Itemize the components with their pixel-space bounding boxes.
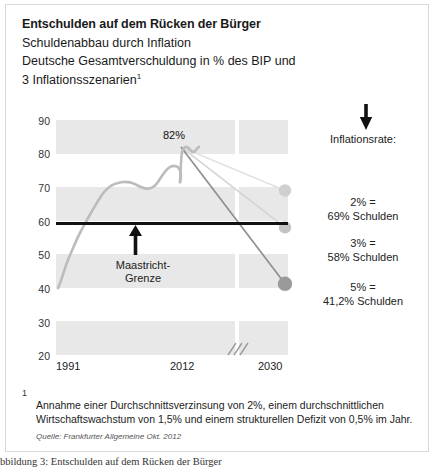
inflation-rate-heading: Inflationsrate: bbox=[300, 133, 426, 145]
y-tick-50: 50 bbox=[20, 250, 50, 260]
plot-area bbox=[56, 120, 288, 355]
scenario-5pct-rate: 5% = bbox=[300, 281, 426, 295]
x-tick-2012: 2012 bbox=[170, 360, 194, 372]
scenario-3pct-result: 58% Schulden bbox=[300, 251, 426, 265]
peak-value-label: 82% bbox=[163, 129, 185, 141]
footnote-marker: 1 bbox=[137, 72, 141, 81]
axis-break-icon bbox=[226, 342, 250, 356]
endpoint-dot-2pct bbox=[279, 184, 291, 196]
scenario-5pct: 5% = 41,2% Schulden bbox=[300, 281, 426, 308]
figure-caption: bbildung 3: Entschulden auf dem Rücken d… bbox=[0, 456, 434, 467]
y-tick-30: 30 bbox=[20, 318, 50, 328]
y-tick-20: 20 bbox=[20, 351, 50, 361]
y-tick-40: 40 bbox=[20, 284, 50, 294]
y-tick-60: 60 bbox=[20, 217, 50, 227]
chart-title: Entschulden auf dem Rücken der Bürger bbox=[22, 17, 261, 31]
source-line: Quelle: Frankfurter Allgemeine Okt. 2012 bbox=[36, 432, 181, 441]
y-tick-70: 70 bbox=[20, 183, 50, 193]
scenario-5pct-result: 41,2% Schulden bbox=[300, 295, 426, 309]
y-tick-90: 90 bbox=[20, 116, 50, 126]
x-tick-1991: 1991 bbox=[56, 360, 80, 372]
chart-lines bbox=[56, 120, 288, 355]
scenario-2pct: 2% = 69% Schulden bbox=[300, 196, 426, 223]
down-arrow-icon bbox=[359, 104, 373, 130]
scenario-2pct-result: 69% Schulden bbox=[300, 210, 426, 224]
up-arrow-icon bbox=[128, 225, 143, 255]
debt-curve-peak bbox=[180, 147, 199, 182]
footnote-text: Annahme einer Durchschnittsverzinsung vo… bbox=[36, 398, 416, 426]
y-tick-80: 80 bbox=[20, 149, 50, 159]
maastricht-label: Maastricht- Grenze bbox=[98, 259, 188, 285]
scenario-3pct: 3% = 58% Schulden bbox=[300, 237, 426, 264]
endpoint-dot-5pct bbox=[278, 277, 292, 291]
scenario-2pct-rate: 2% = bbox=[300, 196, 426, 210]
x-tick-2030: 2030 bbox=[258, 360, 282, 372]
maastricht-label-line2: Grenze bbox=[98, 272, 188, 285]
chart-subtitle-2: Deutsche Gesamtverschuldung in % des BIP… bbox=[22, 54, 296, 68]
maastricht-reference-line bbox=[56, 222, 288, 225]
footnote-superscript: 1 bbox=[22, 388, 27, 398]
maastricht-label-line1: Maastricht- bbox=[98, 259, 188, 272]
scenario-3pct-rate: 3% = bbox=[300, 237, 426, 251]
